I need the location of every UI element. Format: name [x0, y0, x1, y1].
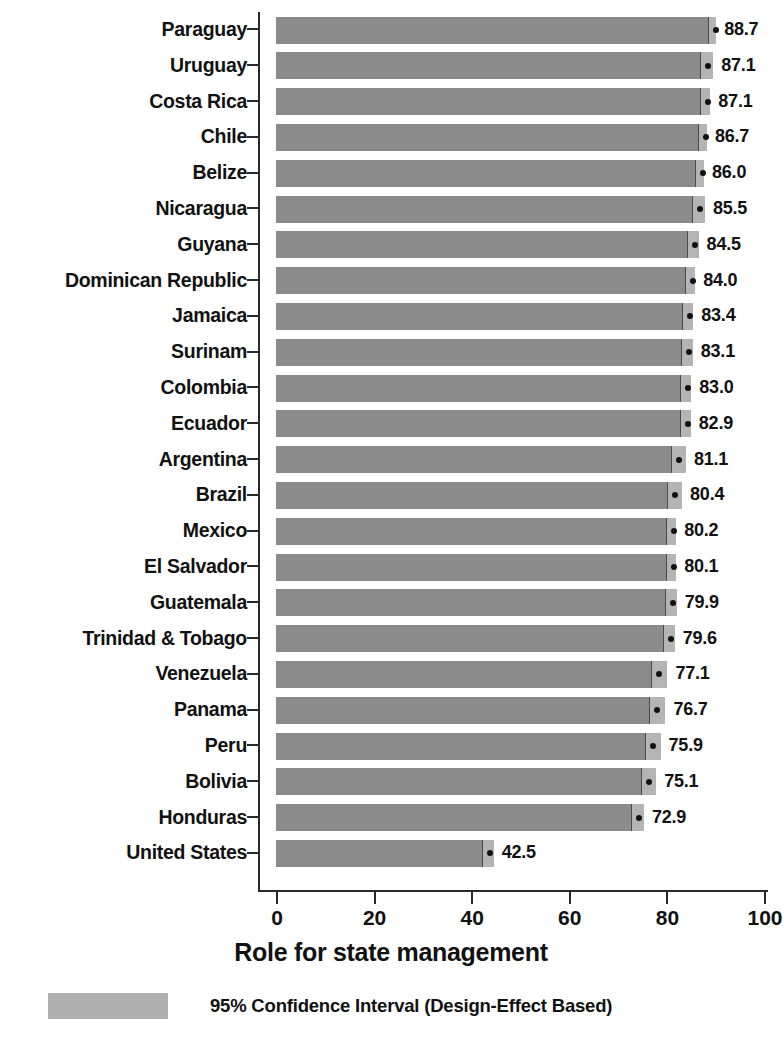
y-axis-label-jamaica: Jamaica: [0, 298, 247, 334]
bar-row: Dominican Republic84.0: [258, 263, 768, 299]
value-label: 86.7: [715, 126, 749, 147]
x-axis-tick-label: 100: [747, 906, 782, 930]
legend-label-confidence-interval: 95% Confidence Interval (Design-Effect B…: [210, 995, 612, 1017]
value-label: 79.9: [685, 592, 719, 613]
y-axis-label-panama: Panama: [0, 692, 247, 728]
bar-row: Paraguay88.7: [258, 12, 768, 48]
point-estimate-marker: [686, 349, 692, 355]
x-axis-tick-label: 60: [558, 906, 581, 930]
category-label: Peru: [205, 728, 247, 764]
bar-row: Uruguay87.1: [258, 48, 768, 84]
y-axis-label-peru: Peru: [0, 728, 247, 764]
category-label: Trinidad & Tobago: [82, 621, 247, 657]
y-axis-tick: [247, 637, 258, 639]
y-axis-label-argentina: Argentina: [0, 442, 247, 478]
category-label: Venezuela: [155, 656, 247, 692]
y-axis-tick: [247, 351, 258, 353]
value-label: 82.9: [699, 413, 733, 434]
y-axis-label-dominican-republic: Dominican Republic: [0, 263, 247, 299]
category-label: Dominican Republic: [65, 263, 247, 299]
y-axis-label-united-states: United States: [0, 835, 247, 871]
x-axis-title: Role for state management: [0, 938, 782, 967]
y-axis-tick: [247, 530, 258, 532]
value-label: 88.7: [724, 19, 758, 40]
bar-row: Trinidad & Tobago79.6: [258, 621, 768, 657]
y-axis-label-surinam: Surinam: [0, 334, 247, 370]
point-estimate-marker: [705, 63, 711, 69]
category-label: Mexico: [183, 513, 247, 549]
estimate-bar: [276, 88, 701, 115]
bar-row: Chile86.7: [258, 119, 768, 155]
y-axis-label-bolivia: Bolivia: [0, 764, 247, 800]
y-axis-label-colombia: Colombia: [0, 370, 247, 406]
y-axis-tick: [247, 172, 258, 174]
category-label: United States: [126, 835, 247, 871]
y-axis-label-paraguay: Paraguay: [0, 12, 247, 48]
y-axis-label-trinidad-tobago: Trinidad & Tobago: [0, 621, 247, 657]
y-axis-tick: [247, 243, 258, 245]
point-estimate-marker: [690, 278, 696, 284]
x-axis-ticks: 020406080100: [258, 892, 768, 938]
bar-row: Surinam83.1: [258, 334, 768, 370]
legend: 95% Confidence Interval (Design-Effect B…: [48, 993, 612, 1019]
estimate-bar: [276, 482, 668, 509]
bar-row: United States42.5: [258, 835, 768, 871]
estimate-bar: [276, 267, 686, 294]
value-label: 80.2: [684, 520, 718, 541]
x-axis-tick: [764, 892, 766, 904]
category-label: Uruguay: [170, 48, 247, 84]
y-axis-tick: [247, 816, 258, 818]
category-label: Ecuador: [171, 406, 247, 442]
x-axis-tick: [374, 892, 376, 904]
y-axis-label-venezuela: Venezuela: [0, 656, 247, 692]
category-label: Surinam: [171, 334, 247, 370]
y-axis-tick: [247, 422, 258, 424]
estimate-bar: [276, 160, 696, 187]
y-axis-tick: [247, 136, 258, 138]
value-label: 87.1: [718, 91, 752, 112]
estimate-bar: [276, 231, 688, 258]
point-estimate-marker: [671, 564, 677, 570]
x-axis-tick-label: 80: [656, 906, 679, 930]
y-axis-tick: [247, 780, 258, 782]
estimate-bar: [276, 697, 650, 724]
value-label: 83.0: [699, 377, 733, 398]
estimate-bar: [276, 17, 709, 44]
point-estimate-marker: [703, 134, 709, 140]
estimate-bar: [276, 52, 701, 79]
category-label: Guyana: [177, 227, 247, 263]
estimate-bar: [276, 661, 652, 688]
y-axis-tick: [247, 565, 258, 567]
y-axis-tick: [247, 386, 258, 388]
estimate-bar: [276, 554, 667, 581]
estimate-bar: [276, 518, 667, 545]
bar-row: Argentina81.1: [258, 442, 768, 478]
value-label: 79.6: [683, 628, 717, 649]
y-axis-tick: [247, 852, 258, 854]
point-estimate-marker: [670, 600, 676, 606]
category-label: El Salvador: [144, 549, 247, 585]
bar-row: Colombia83.0: [258, 370, 768, 406]
value-label: 80.1: [684, 556, 718, 577]
value-label: 77.1: [675, 663, 709, 684]
bar-row: Venezuela77.1: [258, 656, 768, 692]
x-axis-tick-label: 40: [461, 906, 484, 930]
value-label: 75.1: [664, 771, 698, 792]
category-label: Belize: [192, 155, 247, 191]
y-axis-tick: [247, 601, 258, 603]
bar-rows: Paraguay88.7Uruguay87.1Costa Rica87.1Chi…: [258, 12, 768, 872]
bar-row: Guyana84.5: [258, 227, 768, 263]
point-estimate-marker: [700, 170, 706, 176]
bar-row: Costa Rica87.1: [258, 84, 768, 120]
y-axis-tick: [247, 279, 258, 281]
value-label: 84.0: [703, 270, 737, 291]
category-label: Argentina: [159, 442, 247, 478]
y-axis-label-chile: Chile: [0, 119, 247, 155]
estimate-bar: [276, 840, 483, 867]
y-axis-label-guatemala: Guatemala: [0, 585, 247, 621]
x-axis-tick-label: 0: [271, 906, 283, 930]
value-label: 42.5: [502, 842, 536, 863]
y-axis-label-mexico: Mexico: [0, 513, 247, 549]
point-estimate-marker: [676, 457, 682, 463]
